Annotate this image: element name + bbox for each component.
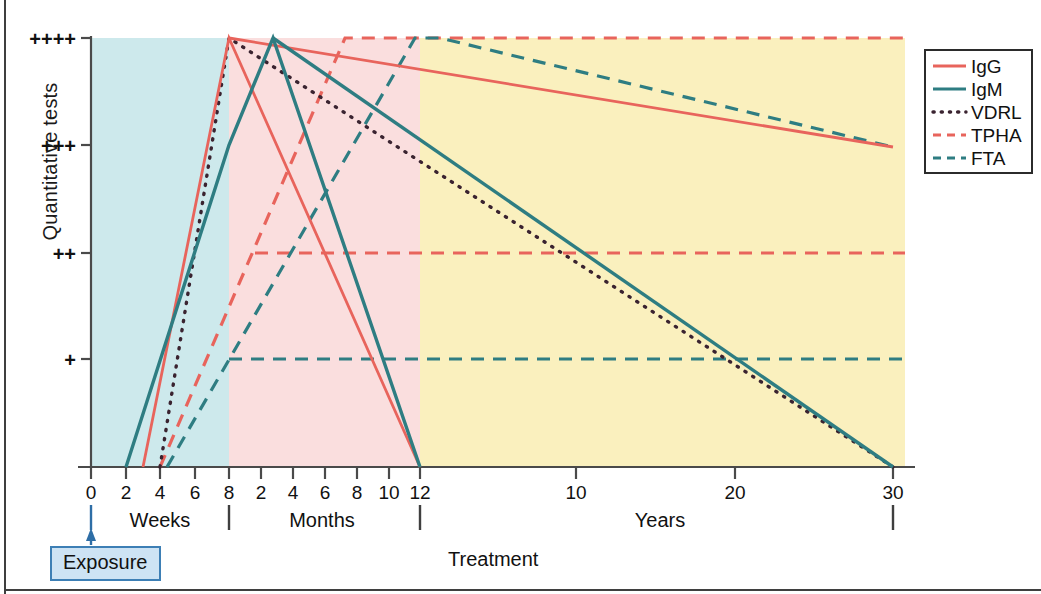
x-tick-label: 30 [882,482,903,503]
x-tick-label: 8 [224,482,235,503]
chart-svg: ++++ +++ ++ + 0 2 4 6 8 2 4 [0,0,1041,594]
y-axis-title: Quantitative tests [39,52,62,272]
figure-panel: Quantitative tests ++++ +++ ++ + [0,0,1041,594]
x-axis-ticks-years: 10 20 30 [565,467,903,503]
x-segment-label-months: Months [289,509,355,531]
x-segment-label-years: Years [635,509,685,531]
region-incubation [91,38,229,467]
x-tick-label: 6 [190,482,201,503]
x-tick-label: 8 [352,482,363,503]
legend-label-fta: FTA [971,148,1006,169]
x-tick-label: 2 [256,482,267,503]
chart-legend: IgG IgM VDRL TPHA FTA [925,50,1032,173]
figure-left-rule [4,0,6,594]
treatment-annotation: Treatment [448,548,538,571]
figure-bottom-rule [4,589,1041,591]
x-tick-label: 20 [724,482,745,503]
legend-label-igm: IgM [971,79,1003,100]
x-segment-labels: Weeks Months Years [130,509,686,531]
exposure-arrow-icon [86,528,96,545]
x-tick-label: 4 [288,482,299,503]
x-segment-separators [91,505,893,530]
x-axis-ticks-weeks: 0 2 4 6 8 [86,467,235,503]
x-segment-label-weeks: Weeks [130,509,191,531]
legend-label-vdrl: VDRL [971,102,1022,123]
x-tick-label: 0 [86,482,97,503]
x-tick-label: 10 [378,482,399,503]
x-tick-label: 4 [155,482,166,503]
legend-label-tpha: TPHA [971,125,1022,146]
x-axis-ticks-months: 2 4 6 8 10 12 [256,467,431,503]
y-tick-label: + [64,349,76,371]
x-tick-label: 10 [565,482,586,503]
exposure-annotation: Exposure [50,546,161,581]
x-tick-label: 2 [121,482,132,503]
x-tick-label: 6 [320,482,331,503]
y-tick-label: ++++ [29,28,76,50]
x-tick-label: 12 [409,482,430,503]
legend-label-igg: IgG [971,56,1002,77]
